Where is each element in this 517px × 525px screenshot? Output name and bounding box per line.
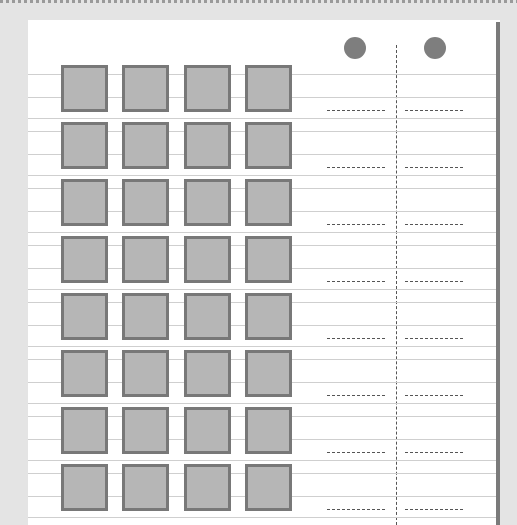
answer-box[interactable] (122, 293, 169, 340)
rule-line (28, 346, 496, 347)
answer-box[interactable] (61, 236, 108, 283)
answer-box[interactable] (184, 293, 231, 340)
column-bubble-2 (424, 37, 446, 59)
top-dotted-border (0, 0, 517, 3)
fill-in-blank[interactable] (405, 395, 463, 396)
answer-box[interactable] (122, 65, 169, 112)
answer-box[interactable] (184, 65, 231, 112)
fill-in-blank[interactable] (405, 224, 463, 225)
rule-line (28, 460, 496, 461)
fill-in-blank[interactable] (405, 281, 463, 282)
answer-box[interactable] (184, 179, 231, 226)
fill-in-blank[interactable] (405, 110, 463, 111)
answer-box[interactable] (245, 122, 292, 169)
answer-box[interactable] (122, 236, 169, 283)
answer-sheet-page (28, 20, 500, 525)
answer-box[interactable] (122, 464, 169, 511)
fill-in-blank[interactable] (405, 509, 463, 510)
fill-in-blank[interactable] (327, 395, 385, 396)
answer-box[interactable] (61, 293, 108, 340)
rule-line (28, 403, 496, 404)
fill-in-blank[interactable] (405, 452, 463, 453)
answer-box[interactable] (61, 350, 108, 397)
fill-in-blank[interactable] (405, 338, 463, 339)
answer-box[interactable] (245, 407, 292, 454)
fill-in-blank[interactable] (327, 509, 385, 510)
answer-box[interactable] (61, 65, 108, 112)
answer-box[interactable] (184, 407, 231, 454)
rule-line (28, 517, 496, 518)
rule-line (28, 175, 496, 176)
answer-box[interactable] (122, 179, 169, 226)
answer-box[interactable] (184, 350, 231, 397)
answer-box[interactable] (184, 236, 231, 283)
fill-in-blank[interactable] (327, 281, 385, 282)
answer-box[interactable] (245, 65, 292, 112)
fill-in-blank[interactable] (327, 452, 385, 453)
answer-box[interactable] (61, 464, 108, 511)
fill-in-blank[interactable] (327, 338, 385, 339)
column-bubble-1 (344, 37, 366, 59)
answer-box[interactable] (245, 236, 292, 283)
fill-in-blank[interactable] (327, 110, 385, 111)
fill-in-blank[interactable] (405, 167, 463, 168)
answer-box[interactable] (61, 122, 108, 169)
page-right-edge (496, 22, 500, 525)
answer-box[interactable] (122, 122, 169, 169)
fill-in-blank[interactable] (327, 224, 385, 225)
column-divider-dashed (396, 45, 397, 525)
answer-box[interactable] (122, 350, 169, 397)
rule-line (28, 289, 496, 290)
rule-line (28, 118, 496, 119)
answer-box[interactable] (61, 179, 108, 226)
fill-in-blank[interactable] (327, 167, 385, 168)
answer-box[interactable] (122, 407, 169, 454)
rule-line (28, 232, 496, 233)
answer-box[interactable] (245, 293, 292, 340)
answer-box[interactable] (184, 122, 231, 169)
answer-box[interactable] (245, 464, 292, 511)
answer-box[interactable] (61, 407, 108, 454)
answer-box[interactable] (245, 179, 292, 226)
answer-box[interactable] (245, 350, 292, 397)
answer-box[interactable] (184, 464, 231, 511)
